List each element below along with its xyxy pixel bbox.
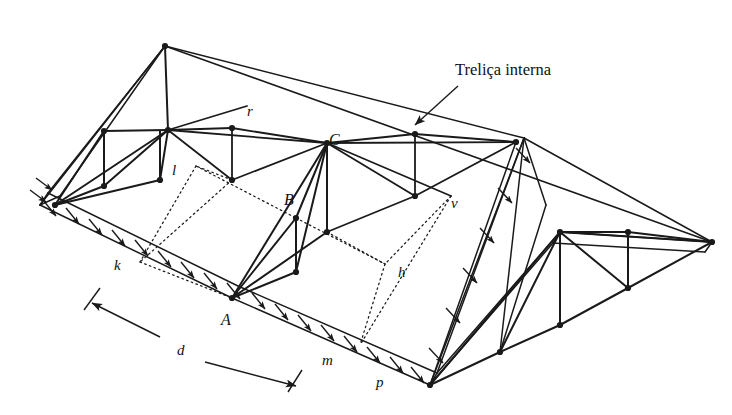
dimension-arrow-right [205, 362, 296, 386]
figure-canvas: Treliça interna r C l B v k h A d m p [0, 0, 732, 415]
load-arrows-left-eave [43, 200, 240, 299]
truss-diagram-svg: Treliça interna r C l B v k h A d m p [0, 0, 732, 415]
label-B: B [284, 191, 294, 208]
label-C: C [329, 131, 340, 148]
roof-outline [40, 46, 712, 385]
label-r: r [247, 103, 253, 119]
hip-rafters-right [430, 138, 546, 385]
internal-truss-b [232, 143, 327, 298]
dimension-arrow-left [92, 303, 160, 337]
label-d: d [177, 342, 185, 358]
dimension-tick-left [84, 288, 100, 310]
load-arrows-left-hip [30, 178, 52, 202]
internal-truss-c [327, 134, 516, 232]
label-A: A [220, 311, 231, 328]
dimension-line-d [84, 288, 302, 392]
label-m: m [322, 352, 333, 368]
label-v: v [451, 195, 458, 211]
label-l: l [172, 162, 176, 178]
load-arrows-right-eave [252, 293, 424, 383]
label-k: k [114, 257, 121, 273]
right-end-truss [430, 232, 712, 385]
label-h: h [398, 264, 406, 280]
label-p: p [375, 374, 384, 390]
dimension-tick-right [288, 370, 302, 392]
node-markers [52, 43, 715, 388]
annotation-treliça-interna: Treliça interna [455, 60, 552, 79]
left-end-truss [55, 46, 168, 205]
